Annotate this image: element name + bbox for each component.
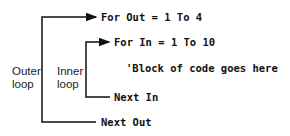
- outer-label-line2: loop: [12, 78, 41, 91]
- inner-label-line2: loop: [57, 78, 83, 91]
- code-for-in: For In = 1 To 10: [114, 36, 215, 48]
- code-next-out: Next Out: [101, 116, 152, 128]
- inner-label-line1: Inner: [57, 65, 83, 78]
- code-for-out: For Out = 1 To 4: [101, 11, 202, 23]
- inner-loop-bracket: [86, 42, 110, 97]
- outer-loop-label: Outer loop: [12, 65, 41, 91]
- code-next-in: Next In: [114, 91, 158, 103]
- nested-loop-diagram: For Out = 1 To 4 For In = 1 To 10 'Block…: [0, 0, 290, 136]
- code-comment: 'Block of code goes here: [126, 62, 278, 74]
- inner-loop-label: Inner loop: [57, 65, 83, 91]
- outer-label-line1: Outer: [12, 65, 41, 78]
